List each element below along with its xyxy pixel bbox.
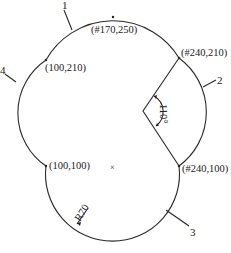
point-label-top: (#170,250)	[91, 24, 138, 36]
point-marker	[178, 57, 180, 59]
arc-number-1: 1	[62, 0, 68, 11]
diagram-canvas: (#170,250) (#240,210) (#240,100) (100,10…	[0, 0, 231, 253]
point-marker	[45, 165, 47, 167]
point-marker	[112, 16, 114, 18]
arc-4	[18, 60, 46, 166]
point-label-upper-left: (100,210)	[45, 62, 87, 74]
leader-3	[166, 210, 189, 226]
point-label-upper-right: (#240,210)	[181, 47, 228, 59]
arc-3	[46, 166, 180, 241]
point-label-lower-right: (#240,100)	[182, 163, 229, 175]
leader-2	[203, 80, 216, 87]
arc-number-3: 3	[190, 226, 196, 238]
arc-number-2: 2	[217, 74, 223, 86]
point-marker	[45, 59, 47, 61]
arc-number-4: 4	[0, 64, 6, 76]
leader-4	[5, 74, 16, 82]
angle-label: 110°	[158, 104, 169, 124]
cam-profile-drawing: (#170,250) (#240,210) (#240,100) (100,10…	[0, 0, 231, 253]
arc-2	[179, 58, 206, 166]
radius-label: R70	[72, 202, 91, 223]
leader-1	[64, 10, 72, 30]
point-marker	[178, 165, 180, 167]
center-marker: ×	[110, 163, 115, 172]
point-label-lower-left: (100,100)	[49, 160, 91, 172]
